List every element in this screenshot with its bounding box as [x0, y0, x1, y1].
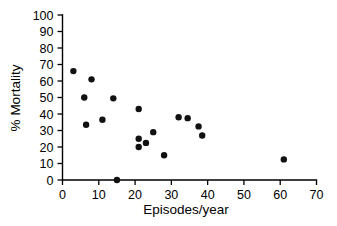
x-tick-label-20: 20: [128, 188, 142, 202]
x-tick-label-30: 30: [164, 188, 178, 202]
x-tick-label-0: 0: [59, 188, 66, 202]
x-tick-label-50: 50: [237, 188, 251, 202]
chart-canvas: 010203040506070 0102030405060708090100 E…: [0, 0, 337, 226]
data-point-13: [175, 114, 181, 120]
y-tick-label-30: 30: [40, 124, 54, 138]
y-tick-label-60: 60: [40, 75, 54, 89]
y-tick-label-0: 0: [47, 174, 54, 188]
y-tick-label-40: 40: [40, 108, 54, 122]
data-point-8: [136, 136, 142, 142]
x-tick-label-70: 70: [310, 188, 324, 202]
scatter-chart-figure: 010203040506070 0102030405060708090100 E…: [0, 0, 337, 226]
y-axis-title: % Mortality: [8, 64, 23, 131]
y-tick-label-80: 80: [40, 42, 54, 56]
data-point-15: [195, 123, 201, 129]
x-tick-label-40: 40: [201, 188, 215, 202]
data-point-17: [281, 156, 287, 162]
data-point-12: [161, 152, 167, 158]
y-axis-tick-labels: 0102030405060708090100: [33, 9, 54, 188]
data-point-11: [150, 129, 156, 135]
x-tick-label-60: 60: [273, 188, 287, 202]
x-axis-title: Episodes/year: [143, 202, 229, 217]
x-axis-tick-labels: 010203040506070: [59, 188, 323, 202]
data-point-16: [199, 132, 205, 138]
data-point-0: [70, 68, 76, 74]
y-tick-label-50: 50: [40, 91, 54, 105]
data-point-3: [88, 76, 94, 82]
y-tick-label-90: 90: [40, 25, 54, 39]
data-points-group: [70, 68, 287, 183]
data-point-7: [136, 106, 142, 112]
x-axis-ticks: [63, 180, 317, 185]
data-point-14: [184, 115, 190, 121]
y-tick-label-10: 10: [40, 157, 54, 171]
axis-spines: [63, 15, 317, 180]
y-tick-label-20: 20: [40, 141, 54, 155]
data-point-1: [81, 94, 87, 100]
y-axis-ticks: [58, 15, 63, 180]
data-point-2: [83, 122, 89, 128]
data-point-6: [114, 177, 120, 183]
data-point-5: [110, 95, 116, 101]
data-point-4: [99, 117, 105, 123]
x-tick-label-10: 10: [92, 188, 106, 202]
y-tick-label-100: 100: [33, 9, 54, 23]
axes-group: [63, 15, 317, 180]
data-point-10: [143, 140, 149, 146]
y-tick-label-70: 70: [40, 58, 54, 72]
data-point-9: [136, 144, 142, 150]
